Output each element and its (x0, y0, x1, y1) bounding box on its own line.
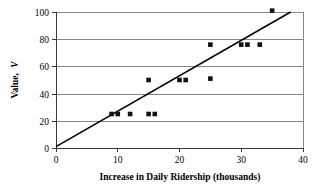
y-axis-title-symbol: V (10, 61, 20, 68)
data-point (208, 42, 213, 47)
y-axis-tick-labels: 100 80 60 40 20 0 (35, 8, 50, 154)
x-tick-label-10: 10 (113, 155, 123, 165)
data-point (146, 112, 151, 117)
data-point (177, 78, 182, 83)
y-tick-label-20: 20 (40, 117, 50, 127)
data-point (183, 78, 188, 83)
x-axis-tick-labels: 0 10 20 30 40 (54, 155, 308, 165)
chart-figure: 100 80 60 40 20 0 0 10 20 30 40 Increase… (0, 0, 328, 192)
data-point (257, 42, 262, 47)
data-point (115, 112, 120, 117)
y-axis-ticks (52, 12, 56, 148)
data-point (146, 78, 151, 83)
y-tick-label-0: 0 (44, 144, 49, 154)
y-axis-title-text: Value, (10, 73, 20, 99)
data-point (153, 112, 158, 117)
x-tick-label-40: 40 (298, 155, 308, 165)
x-tick-label-30: 30 (237, 155, 247, 165)
data-point (239, 42, 244, 47)
y-tick-label-80: 80 (40, 35, 50, 45)
y-tick-label-40: 40 (40, 90, 50, 100)
x-tick-label-20: 20 (175, 155, 185, 165)
x-axis-title: Increase in Daily Ridership (thousands) (100, 172, 261, 183)
x-axis-ticks (56, 148, 303, 152)
y-axis-title: Value, V (10, 61, 20, 99)
y-tick-label-100: 100 (35, 8, 50, 18)
data-point (270, 8, 275, 13)
x-tick-label-0: 0 (54, 155, 59, 165)
data-point (245, 42, 250, 47)
data-point (208, 76, 213, 81)
y-axis-title-group: Value, V (10, 61, 20, 99)
data-point (128, 112, 133, 117)
scatter-plot: 100 80 60 40 20 0 0 10 20 30 40 Increase… (0, 0, 328, 192)
data-point (109, 112, 114, 117)
y-tick-label-60: 60 (40, 62, 50, 72)
